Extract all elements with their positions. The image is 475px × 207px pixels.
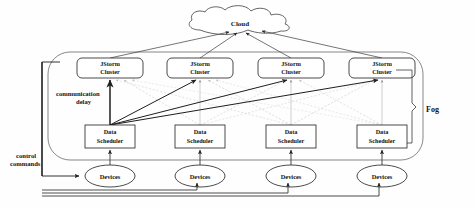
scheduler-label-line2: Scheduler: [97, 137, 124, 144]
device-scheduler-edges: [110, 150, 382, 165]
scheduler-label-line2: Scheduler: [369, 137, 396, 144]
scheduler-label-line1: Data: [104, 128, 117, 135]
scheduler-node-0[interactable]: Data Scheduler: [85, 125, 135, 148]
cluster-label-line2: Cluster: [372, 68, 392, 75]
cluster-label-line1: JStorm: [281, 60, 301, 67]
cluster-node-1[interactable]: JStorm Cluster: [167, 58, 233, 78]
scheduler-node-1[interactable]: Data Scheduler: [175, 125, 225, 148]
control-commands-label: control: [16, 152, 36, 159]
device-node-2[interactable]: Devices: [266, 165, 316, 187]
cluster-label-line1: JStorm: [190, 60, 210, 67]
cloud-cluster-edges: [110, 31, 382, 58]
device-node-1[interactable]: Devices: [175, 165, 225, 187]
scheduler-node-3[interactable]: Data Scheduler: [357, 125, 407, 148]
scheduler-label-line1: Data: [194, 128, 207, 135]
cluster-label-line1: JStorm: [372, 60, 392, 67]
control-commands-label-2: commands: [10, 160, 41, 167]
cluster-label-line2: Cluster: [190, 68, 210, 75]
device-label: Devices: [190, 173, 211, 180]
scheduler-cluster-mesh-light: [116, 80, 382, 125]
scheduler-label-line1: Data: [285, 128, 298, 135]
scheduler-label-line2: Scheduler: [187, 137, 214, 144]
device-label: Devices: [372, 173, 393, 180]
scheduler-label-line2: Scheduler: [278, 137, 305, 144]
cluster-label-line1: JStorm: [100, 60, 120, 67]
cloud-label: Cloud: [231, 20, 249, 28]
communication-delay-label-2: delay: [76, 98, 92, 105]
cluster-label-line2: Cluster: [281, 68, 301, 75]
architecture-diagram: Cloud JStorm Cluster: [0, 0, 475, 207]
figure-canvas: Cloud JStorm Cluster: [0, 0, 475, 207]
scheduler1-cluster-edges: [110, 80, 378, 125]
device-node-0[interactable]: Devices: [85, 165, 135, 187]
device-label: Devices: [100, 173, 121, 180]
cluster-node-3[interactable]: JStorm Cluster: [349, 58, 415, 78]
communication-delay-label: communication: [56, 90, 100, 97]
scheduler-label-line1: Data: [376, 128, 389, 135]
cluster-label-line2: Cluster: [100, 68, 120, 75]
cloud-node: Cloud: [189, 6, 289, 35]
scheduler-node-2[interactable]: Data Scheduler: [266, 125, 316, 148]
cluster-node-2[interactable]: JStorm Cluster: [258, 58, 324, 78]
cluster-node-0[interactable]: JStorm Cluster: [77, 58, 143, 78]
device-label: Devices: [281, 173, 302, 180]
device-node-3[interactable]: Devices: [357, 165, 407, 187]
fog-label: Fog: [426, 105, 439, 114]
